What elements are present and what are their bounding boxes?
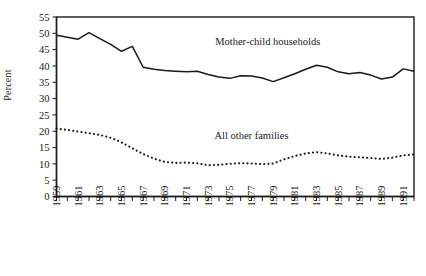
mother-child-households-label: Mother-child households — [215, 36, 320, 47]
y-tick-label: 5 — [44, 175, 49, 186]
data-series-group — [57, 33, 415, 166]
y-tick-label: 25 — [39, 110, 50, 121]
y-tick-label: 55 — [39, 12, 50, 23]
y-axis-ticks: 0510152025303540455055 — [39, 12, 57, 203]
y-tick-label: 20 — [39, 126, 50, 137]
y-tick-label: 50 — [39, 28, 50, 39]
y-tick-label: 40 — [39, 61, 50, 72]
y-tick-label: 45 — [39, 44, 50, 55]
y-tick-label: 0 — [44, 191, 49, 202]
chart-annotations: Mother-child householdsAll other familie… — [214, 36, 320, 142]
line-chart-plot: 0510152025303540455055 19591961196319651… — [0, 0, 426, 276]
y-tick-label: 10 — [39, 159, 50, 170]
y-tick-label: 30 — [39, 93, 50, 104]
all-other-families-label: All other families — [214, 130, 288, 141]
chart-figure: Percent 0510152025303540455055 195919611… — [0, 0, 426, 276]
y-tick-label: 15 — [39, 142, 50, 153]
y-tick-label: 35 — [39, 77, 50, 88]
